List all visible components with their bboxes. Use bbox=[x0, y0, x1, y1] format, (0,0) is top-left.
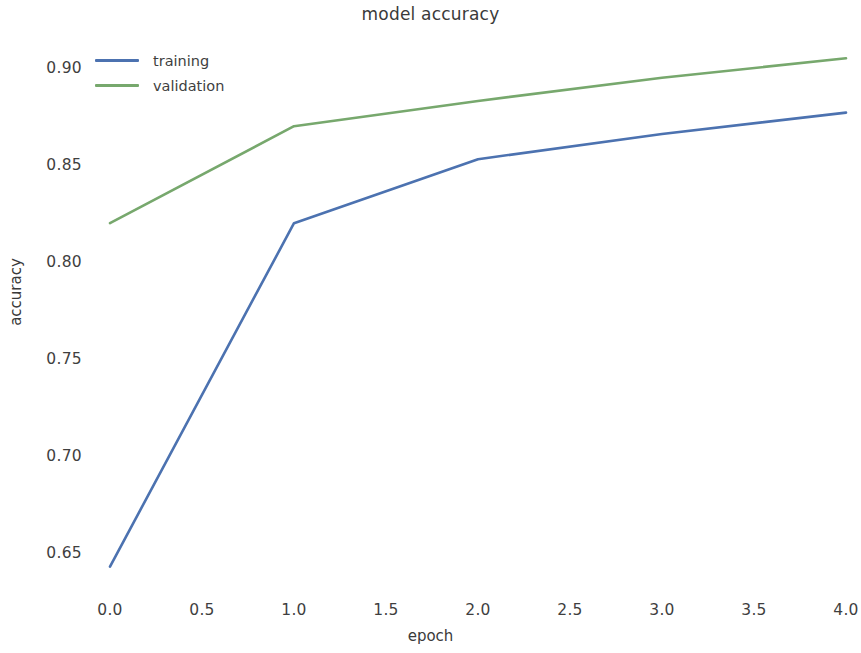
series-layer bbox=[110, 58, 846, 566]
legend-item-training: training bbox=[95, 48, 265, 73]
x-tick-label: 1.5 bbox=[356, 601, 416, 619]
y-tick-label: 0.65 bbox=[20, 544, 82, 562]
legend: trainingvalidation bbox=[95, 48, 265, 98]
x-tick-label: 3.5 bbox=[724, 601, 784, 619]
x-tick-label: 2.0 bbox=[448, 601, 508, 619]
legend-line-swatch-icon bbox=[95, 59, 139, 62]
y-tick-label: 0.70 bbox=[20, 447, 82, 465]
y-tick-label: 0.85 bbox=[20, 156, 82, 174]
legend-item-label: validation bbox=[153, 78, 224, 94]
y-axis-label: accuracy bbox=[7, 232, 25, 352]
legend-item-label: training bbox=[153, 53, 209, 69]
y-tick-label: 0.75 bbox=[20, 350, 82, 368]
legend-item-validation: validation bbox=[95, 73, 265, 98]
y-tick-label: 0.80 bbox=[20, 253, 82, 271]
x-tick-label: 2.5 bbox=[540, 601, 600, 619]
x-axis-label: epoch bbox=[0, 627, 861, 645]
x-tick-label: 0.5 bbox=[172, 601, 232, 619]
y-tick-label: 0.90 bbox=[20, 59, 82, 77]
x-tick-label: 1.0 bbox=[264, 601, 324, 619]
x-tick-label: 4.0 bbox=[816, 601, 861, 619]
legend-line-swatch-icon bbox=[95, 84, 139, 87]
x-tick-label: 3.0 bbox=[632, 601, 692, 619]
y-axis-tick-labels: 0.650.700.750.800.850.90 bbox=[20, 0, 82, 653]
x-tick-label: 0.0 bbox=[80, 601, 140, 619]
figure-canvas: model accuracy 0.650.700.750.800.850.90 … bbox=[0, 0, 861, 653]
series-line-training bbox=[110, 113, 846, 567]
